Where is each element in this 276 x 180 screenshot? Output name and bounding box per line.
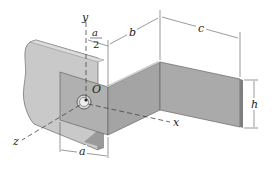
z-axis-label: z	[12, 135, 19, 148]
dimension-h-label: h	[251, 98, 258, 111]
dimension-a-label: a	[79, 145, 86, 158]
dimension-b: b	[110, 10, 160, 60]
dimension-c-label: c	[198, 22, 204, 35]
origin-label: O	[92, 83, 101, 96]
dimension-b-label: b	[129, 26, 136, 39]
bolt-icon	[77, 95, 91, 109]
dimension-h: h	[244, 80, 260, 128]
bracket-section-b	[106, 61, 160, 135]
y-axis-label: y	[81, 11, 89, 24]
dimension-a-half-denominator: 2	[93, 39, 99, 50]
bracket-diagram: y x z O a 2 b c h a	[0, 0, 276, 180]
dimension-a-half-numerator: a	[92, 27, 98, 38]
x-axis-label: x	[173, 116, 180, 129]
